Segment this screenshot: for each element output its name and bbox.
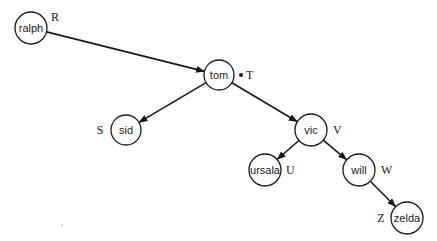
node-ursala: ursalaU <box>249 154 295 186</box>
node-sid: sidS <box>97 115 141 145</box>
nodes-layer: ralphRtomTsidSvicVursalaUwillWzeldaZ <box>15 10 423 234</box>
node-tag-letter: T <box>246 68 254 82</box>
node-tag-letter: R <box>51 10 59 24</box>
node-ralph: ralphR <box>15 10 59 44</box>
node-tag-letter: U <box>286 163 295 177</box>
node-tag-letter: V <box>333 123 342 137</box>
edge-tom-to-vic <box>232 83 297 122</box>
marker-dot-icon <box>239 73 243 77</box>
edge-ralph-to-tom <box>47 32 205 72</box>
node-label: zelda <box>394 212 421 224</box>
edge-tom-to-sid <box>139 83 206 123</box>
edge-vic-to-will <box>323 140 346 160</box>
node-label: will <box>350 164 366 176</box>
node-label: vic <box>304 124 318 136</box>
scan-speck <box>61 224 63 226</box>
node-tag-letter: Z <box>377 211 384 225</box>
edges-layer <box>47 32 396 207</box>
node-tag-letter: S <box>97 123 104 137</box>
node-label: ursala <box>250 164 281 176</box>
node-label: sid <box>119 124 133 136</box>
tree-diagram: ralphRtomTsidSvicVursalaUwillWzeldaZ <box>0 0 437 241</box>
node-tag-letter: W <box>381 163 393 177</box>
node-vic: vicV <box>295 114 342 146</box>
node-label: tom <box>210 69 228 81</box>
edge-will-to-zelda <box>370 181 395 206</box>
node-tom: tomT <box>204 60 254 90</box>
node-will: willW <box>343 154 393 186</box>
node-label: ralph <box>19 22 43 34</box>
edge-vic-to-ursala <box>277 141 299 160</box>
node-zelda: zeldaZ <box>377 202 423 234</box>
